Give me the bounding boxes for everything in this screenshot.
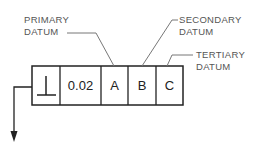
secondary-datum-label: SECONDARY DATUM — [179, 14, 242, 38]
tertiary-label-line1: TERTIARY — [196, 49, 245, 61]
secondary-datum-value: B — [138, 78, 147, 93]
tertiary-datum-value: C — [165, 78, 174, 93]
tertiary-datum-cell: C — [156, 66, 183, 105]
secondary-label-line1: SECONDARY — [179, 14, 242, 26]
primary-datum-value: A — [110, 78, 119, 93]
leader-arrow — [11, 87, 33, 142]
primary-label-line1: PRIMARY — [24, 14, 69, 26]
tertiary-leader-line — [167, 55, 193, 66]
primary-leader-line — [67, 33, 114, 66]
secondary-leader-line — [142, 20, 178, 66]
secondary-datum-cell: B — [128, 66, 156, 105]
tolerance-cell: 0.02 — [60, 66, 101, 105]
primary-datum-label: PRIMARY DATUM — [24, 14, 69, 38]
perpendicularity-icon — [37, 76, 56, 95]
primary-label-line2: DATUM — [24, 26, 69, 38]
primary-datum-cell: A — [101, 66, 128, 105]
tertiary-label-line2: DATUM — [196, 61, 245, 73]
secondary-label-line2: DATUM — [179, 26, 242, 38]
tertiary-datum-label: TERTIARY DATUM — [196, 49, 245, 73]
tolerance-value: 0.02 — [68, 78, 93, 93]
